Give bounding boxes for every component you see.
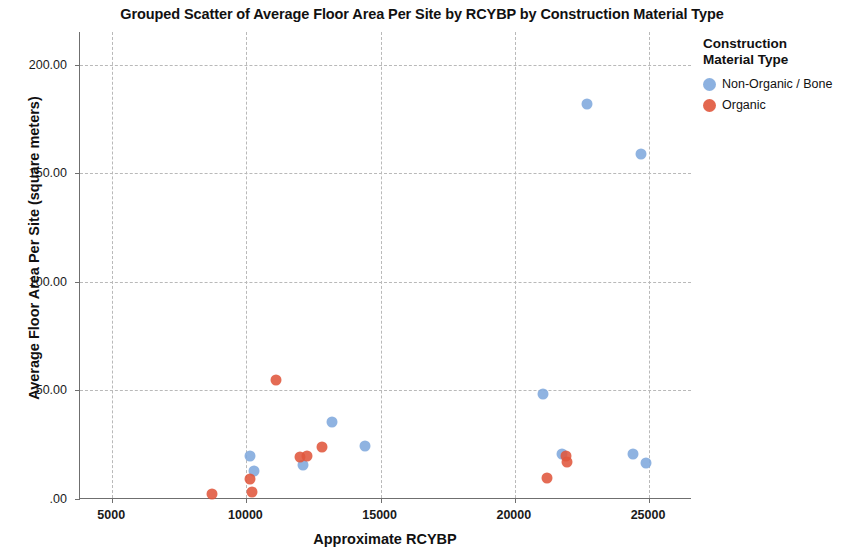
y-axis-tick xyxy=(75,499,80,500)
gridline-vertical xyxy=(381,32,382,498)
data-point xyxy=(641,458,652,469)
data-point xyxy=(327,416,338,427)
y-axis-tick xyxy=(75,65,80,66)
data-point xyxy=(301,450,312,461)
legend-entries: Non-Organic / BoneOrganic xyxy=(703,75,843,115)
x-axis-tick-label: 25000 xyxy=(631,508,666,522)
gridline-horizontal xyxy=(80,173,691,174)
gridline-vertical xyxy=(246,32,247,498)
data-point xyxy=(316,441,327,452)
gridline-horizontal xyxy=(80,65,691,66)
x-axis-tick-label: 5000 xyxy=(97,508,125,522)
legend-item-label: Organic xyxy=(722,98,766,112)
legend-item[interactable]: Non-Organic / Bone xyxy=(703,75,843,94)
x-axis-tick-label: 20000 xyxy=(496,508,531,522)
gridline-horizontal xyxy=(80,282,691,283)
x-axis-tick xyxy=(515,498,516,503)
legend-title-line2: Material Type xyxy=(703,52,835,68)
chart-title: Grouped Scatter of Average Floor Area Pe… xyxy=(0,6,844,22)
x-axis-tick xyxy=(246,498,247,503)
x-axis-title: Approximate RCYBP xyxy=(79,531,691,547)
scatter-chart: Grouped Scatter of Average Floor Area Pe… xyxy=(0,0,844,557)
y-axis-tick xyxy=(75,173,80,174)
gridline-horizontal xyxy=(80,390,691,391)
y-axis-tick-label: .00 xyxy=(0,492,67,506)
data-point xyxy=(627,449,638,460)
y-axis-tick xyxy=(75,390,80,391)
data-point xyxy=(542,473,553,484)
data-point xyxy=(206,488,217,499)
x-axis-tick xyxy=(381,498,382,503)
data-point xyxy=(270,374,281,385)
data-point xyxy=(636,148,647,159)
y-axis-title: Average Floor Area Per Site (square mete… xyxy=(26,38,42,458)
legend-marker-icon xyxy=(703,78,716,91)
y-axis-tick xyxy=(75,282,80,283)
legend-item-label: Non-Organic / Bone xyxy=(722,77,832,91)
legend-title-line1: Construction xyxy=(703,36,835,52)
data-point xyxy=(245,474,256,485)
x-axis-tick-label: 10000 xyxy=(228,508,263,522)
gridline-vertical xyxy=(649,32,650,498)
data-point xyxy=(245,450,256,461)
data-point xyxy=(582,98,593,109)
data-point xyxy=(562,457,573,468)
x-axis-tick xyxy=(112,498,113,503)
data-point xyxy=(538,388,549,399)
plot-area xyxy=(79,32,691,499)
x-axis-tick xyxy=(649,498,650,503)
legend: Construction Material Type Non-Organic /… xyxy=(703,36,843,117)
legend-title: Construction Material Type xyxy=(703,36,835,68)
data-point xyxy=(246,487,257,498)
data-point xyxy=(359,440,370,451)
legend-item[interactable]: Organic xyxy=(703,96,843,115)
legend-marker-icon xyxy=(703,99,716,112)
x-axis-tick-label: 15000 xyxy=(362,508,397,522)
gridline-vertical xyxy=(112,32,113,498)
gridline-vertical xyxy=(515,32,516,498)
